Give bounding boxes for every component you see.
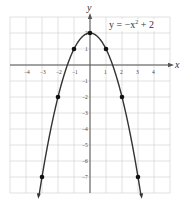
x-tick-label: −3 bbox=[40, 69, 46, 75]
y-tick-label: −5 bbox=[82, 142, 88, 148]
y-tick-label: −7 bbox=[82, 174, 88, 180]
y-tick-label: 1 bbox=[85, 46, 88, 52]
data-point bbox=[88, 31, 93, 36]
x-tick-label: 3 bbox=[136, 69, 139, 75]
data-point bbox=[120, 95, 125, 100]
equation-rhs: + 2 bbox=[138, 19, 154, 30]
x-axis-label: x bbox=[174, 59, 180, 70]
data-point bbox=[72, 47, 77, 52]
x-tick-label: 1 bbox=[104, 69, 107, 75]
x-tick-label: 2 bbox=[120, 69, 123, 75]
data-point bbox=[40, 175, 45, 180]
y-tick-label: −2 bbox=[82, 94, 88, 100]
y-tick-label: −6 bbox=[82, 158, 88, 164]
equation-lhs: y = −x bbox=[109, 19, 135, 30]
data-point bbox=[104, 47, 109, 52]
y-tick-label: −4 bbox=[82, 126, 88, 132]
y-axis-label: y bbox=[86, 2, 92, 13]
parabola-graph: −4−3−2−1123421−1−2−3−4−5−6−7 x y y = −x2… bbox=[0, 0, 192, 203]
svg-text:y = −x2 + 2: y = −x2 + 2 bbox=[109, 19, 154, 30]
x-tick-label: −1 bbox=[72, 69, 78, 75]
data-point bbox=[56, 95, 61, 100]
x-tick-label: −4 bbox=[24, 69, 30, 75]
y-tick-label: −1 bbox=[82, 78, 88, 84]
data-point bbox=[136, 175, 141, 180]
x-tick-label: −2 bbox=[56, 69, 62, 75]
axes bbox=[10, 13, 174, 193]
equation-label: y = −x2 + 2 bbox=[107, 19, 169, 31]
x-tick-label: 4 bbox=[152, 69, 155, 75]
y-tick-label: −3 bbox=[82, 110, 88, 116]
